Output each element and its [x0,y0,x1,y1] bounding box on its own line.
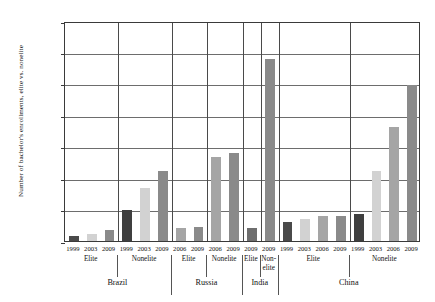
x-axis-year-label: 2009 [189,243,207,254]
x-axis-year-label: 2003 [82,243,100,254]
tier-separator [261,23,262,241]
bar [105,230,115,241]
x-axis-year-label: 1999 [278,243,296,254]
x-axis-year-label: 2009 [242,243,260,254]
tier-separator [118,23,119,241]
tier-label-separator [206,255,207,277]
x-axis-tier-label: Non-elite [260,255,278,273]
country-label-separator [242,255,243,295]
bar [283,222,293,241]
bar [211,157,221,241]
x-axis: 1999200320091999200320092006200920062009… [64,243,420,302]
x-axis-tier-label: Nonelite [117,255,170,264]
bar [318,216,328,241]
x-axis-year-label: 2009 [224,243,242,254]
x-axis-year-label: 2003 [367,243,385,254]
chart-figure: Number of bachelor's enrollments, elite … [0,0,435,302]
x-axis-year-label: 2006 [206,243,224,254]
tier-separator [172,23,173,241]
tier-label-separator [260,255,261,277]
country-label-separator [278,255,279,295]
x-axis-year-label: 2003 [135,243,153,254]
x-axis-year-label: 2006 [384,243,402,254]
bar [300,219,310,241]
x-axis-year-label: 2009 [100,243,118,254]
tier-separator [207,23,208,241]
y-axis-title: Number of bachelor's enrollments, elite … [17,6,25,236]
bar [122,210,132,241]
plot-area [64,22,420,242]
bar [158,171,168,241]
x-axis-tier-label: Nonelite [206,255,242,264]
x-axis-year-label: 2009 [402,243,420,254]
tier-separator [243,23,244,241]
x-axis-tier-label: Elite [171,255,207,264]
bar [389,127,399,241]
country-label-separator [171,255,172,295]
x-axis-year-label: 2009 [331,243,349,254]
bar [229,153,239,241]
x-axis-tier-label: Elite [242,255,260,264]
bar [140,188,150,241]
x-axis-year-label: 2009 [153,243,171,254]
bar [194,227,204,241]
bar [69,236,79,241]
x-axis-country-label: India [242,277,278,288]
tier-separator [279,23,280,241]
x-axis-year-label: 2006 [313,243,331,254]
tier-separator [350,23,351,241]
x-axis-year-labels: 1999200320091999200320092006200920062009… [64,243,420,255]
x-axis-year-label: 2003 [295,243,313,254]
x-axis-country-label: China [278,277,420,288]
x-axis-year-label: 1999 [117,243,135,254]
bar [336,216,346,241]
x-axis-country-label: Russia [171,277,242,288]
x-axis-year-label: 1999 [64,243,82,254]
x-axis-country-labels: BrazilRussiaIndiaChina [64,277,420,295]
bar [354,214,364,241]
x-axis-year-label: 2009 [260,243,278,254]
tier-label-separator [117,255,118,277]
bar [372,171,382,241]
bar [407,85,417,241]
bar [247,228,257,242]
x-axis-country-label: Brazil [64,277,171,288]
x-axis-year-label: 1999 [349,243,367,254]
x-axis-tier-label: Nonelite [349,255,420,264]
x-axis-tier-label: Elite [64,255,117,264]
x-axis-tier-label: Elite [278,255,349,264]
bar [265,59,275,241]
bar [176,228,186,241]
x-axis-year-label: 2006 [171,243,189,254]
bar [87,234,97,241]
tier-label-separator [349,255,350,277]
